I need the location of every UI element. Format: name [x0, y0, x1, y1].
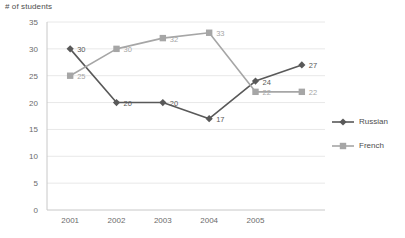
data-point-label: 22: [263, 88, 271, 97]
chart-canvas: 05101520253035 20012002200320042005 3020…: [0, 0, 405, 238]
legend-label-french: French: [359, 141, 384, 150]
data-labels: 302020172427253032332222: [77, 29, 317, 124]
y-axis-tick-label: 35: [29, 18, 38, 27]
data-point-marker-diamond: [159, 99, 166, 106]
y-axis-ticks: 05101520253035: [29, 18, 38, 215]
x-axis-tick-label: 2004: [200, 216, 218, 225]
data-point-label: 24: [263, 78, 271, 87]
legend-label-russian: Russian: [359, 117, 388, 126]
x-axis-tick-label: 2003: [154, 216, 172, 225]
y-axis-tick-label: 5: [34, 179, 39, 188]
legend-marker-diamond: [339, 118, 346, 125]
data-point-marker-square: [252, 89, 258, 95]
line-chart: # of students 05101520253035 20012002200…: [0, 0, 405, 238]
x-axis-tick-label: 2001: [61, 216, 79, 225]
gridlines: [47, 22, 325, 183]
y-axis-tick-label: 30: [29, 45, 38, 54]
data-point-label: 25: [77, 72, 85, 81]
y-axis-tick-label: 25: [29, 72, 38, 81]
data-point-label: 30: [124, 45, 132, 54]
data-point-label: 30: [77, 45, 85, 54]
data-point-marker-square: [206, 30, 212, 36]
data-point-label: 17: [216, 115, 224, 124]
y-axis-tick-label: 20: [29, 99, 38, 108]
data-point-label: 20: [124, 99, 132, 108]
x-axis-tick-label: 2005: [247, 216, 265, 225]
axis-lines: [47, 22, 325, 210]
data-point-marker-diamond: [298, 61, 305, 68]
data-point-label: 33: [216, 29, 224, 38]
y-axis-tick-label: 10: [29, 152, 38, 161]
data-point-label: 32: [170, 35, 178, 44]
x-axis-ticks: 20012002200320042005: [61, 216, 265, 225]
y-axis-tick-label: 0: [34, 206, 39, 215]
data-point-label: 22: [309, 88, 317, 97]
y-axis-tick-label: 15: [29, 125, 38, 134]
legend-marker-square: [340, 143, 346, 149]
x-axis-tick-label: 2002: [108, 216, 126, 225]
data-point-marker-square: [299, 89, 305, 95]
data-point-marker-square: [67, 73, 73, 79]
data-point-marker-square: [113, 46, 119, 52]
chart-legend: RussianFrench: [332, 117, 388, 150]
data-point-marker-square: [160, 35, 166, 41]
data-point-label: 20: [170, 99, 178, 108]
data-point-label: 27: [309, 61, 317, 70]
